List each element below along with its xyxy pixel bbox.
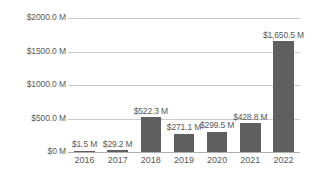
y-axis-tick-label: $1000.0 M [0, 80, 66, 89]
bar [74, 151, 95, 152]
y-axis-tick-label: $500.0 M [0, 114, 66, 123]
x-axis: 2016201720182019202020212022 [68, 155, 300, 171]
bar-slot: $1.5 M [74, 18, 95, 152]
bar-value-label: $522.3 M [134, 107, 168, 116]
bar-value-label: $428.8 M [233, 113, 267, 122]
x-axis-tick-label: 2021 [234, 155, 267, 166]
bar-slot: $271.1 M [174, 18, 195, 152]
bar-value-label: $271.1 M [167, 123, 201, 132]
bar [141, 117, 162, 152]
y-axis-tick-label: $0 M [0, 147, 66, 156]
x-axis-tick-label: 2020 [201, 155, 234, 166]
x-axis-tick-label: 2019 [167, 155, 200, 166]
bar [174, 134, 195, 152]
bar-value-label: $1.5 M [72, 140, 97, 149]
bar-slot: $522.3 M [141, 18, 162, 152]
bar-series: $1.5 M$29.2 M$522.3 M$271.1 M$299.5 M$42… [68, 18, 300, 152]
x-axis-tick-label: 2022 [267, 155, 300, 166]
bar-value-label: $299.5 M [200, 121, 234, 130]
bar-chart: $1.5 M$29.2 M$522.3 M$271.1 M$299.5 M$42… [0, 0, 318, 181]
bar-value-label: $1,650.5 M [263, 31, 304, 40]
gridline-0 [68, 152, 300, 153]
bar [240, 123, 261, 152]
y-axis-tick-label: $2000.0 M [0, 13, 66, 22]
bar [273, 41, 294, 152]
x-axis-tick-label: 2016 [68, 155, 101, 166]
x-axis-tick-label: 2018 [134, 155, 167, 166]
bar-slot: $1,650.5 M [273, 18, 294, 152]
bar [207, 132, 228, 152]
bar-slot: $29.2 M [107, 18, 128, 152]
bar-value-label: $29.2 M [103, 140, 133, 149]
x-axis-tick-label: 2017 [101, 155, 134, 166]
bar [107, 150, 128, 152]
bar-slot: $299.5 M [207, 18, 228, 152]
y-axis-tick-label: $1500.0 M [0, 47, 66, 56]
bar-slot: $428.8 M [240, 18, 261, 152]
